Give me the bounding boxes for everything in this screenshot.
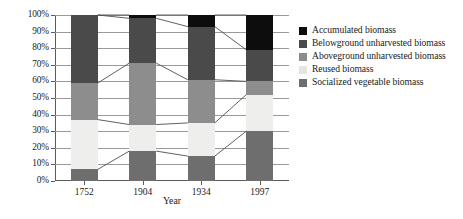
connector-line xyxy=(98,120,130,125)
legend-item-label: Reused biomass xyxy=(312,63,373,75)
connector-line xyxy=(156,151,188,156)
connector-line xyxy=(215,95,247,123)
y-axis-tick-label: 80% xyxy=(32,44,49,53)
y-axis-tick-label: 90% xyxy=(32,27,49,36)
connector-line xyxy=(156,18,188,26)
y-axis-tick-label: 30% xyxy=(32,127,49,136)
legend-swatch-icon xyxy=(299,66,307,74)
x-axis-tick-mark xyxy=(84,181,85,185)
y-axis-tick-label: 70% xyxy=(32,60,49,69)
x-axis-tick-mark xyxy=(201,181,202,185)
y-axis-tick-label: 40% xyxy=(32,110,49,119)
connector-line xyxy=(215,131,247,156)
x-axis-tick-mark xyxy=(260,181,261,185)
y-axis-tick-label: 50% xyxy=(32,93,49,102)
y-axis-tick-label: 20% xyxy=(32,143,49,152)
y-axis-tick-mark xyxy=(51,181,55,182)
connector-line xyxy=(215,80,247,82)
legend-item[interactable]: Belowground unharvested biomass xyxy=(299,37,459,49)
legend-item-label: Belowground unharvested biomass xyxy=(312,37,445,49)
legend-item[interactable]: Accumulated biomass xyxy=(299,24,459,36)
connector-line xyxy=(98,151,130,169)
chart-figure: 0%10%20%30%40%50%60%70%80%90%100% 175219… xyxy=(0,0,463,219)
legend-swatch-icon xyxy=(299,27,307,35)
chart-legend: Accumulated biomassBelowground unharvest… xyxy=(299,24,459,89)
x-axis-tick-mark xyxy=(143,181,144,185)
connector-line xyxy=(98,63,130,83)
legend-item-label: Accumulated biomass xyxy=(312,24,396,36)
legend-item-label: Aboveground unharvested biomass xyxy=(312,50,446,62)
legend-swatch-icon xyxy=(299,53,307,61)
legend-item[interactable]: Aboveground unharvested biomass xyxy=(299,50,459,62)
legend-swatch-icon xyxy=(299,79,307,87)
x-axis-title: Year xyxy=(55,196,289,206)
legend-swatch-icon xyxy=(299,40,307,48)
y-axis-tick-label: 10% xyxy=(32,160,49,169)
plot-area: 0%10%20%30%40%50%60%70%80%90%100% 175219… xyxy=(55,15,289,181)
y-axis-tick-label: 60% xyxy=(32,77,49,86)
connector-line xyxy=(156,123,188,125)
stack-connector-lines xyxy=(55,15,289,181)
legend-item[interactable]: Socialized vegetable biomass xyxy=(299,76,459,88)
connector-line xyxy=(156,63,188,80)
connector-line xyxy=(98,15,130,18)
y-axis-tick-label: 0% xyxy=(37,176,49,185)
connector-line xyxy=(215,27,247,50)
y-axis-tick-label: 100% xyxy=(28,10,49,19)
legend-item[interactable]: Reused biomass xyxy=(299,63,459,75)
legend-item-label: Socialized vegetable biomass xyxy=(312,76,424,88)
